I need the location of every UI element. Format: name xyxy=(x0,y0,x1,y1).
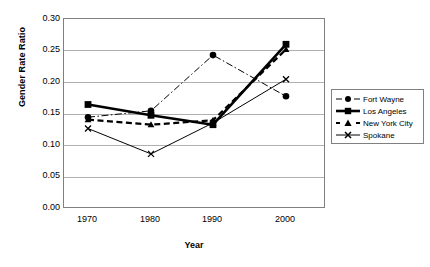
plot-area xyxy=(63,18,325,208)
legend-symbol-solid-square-icon xyxy=(335,105,361,117)
y-tick-label: 0.25 xyxy=(26,45,60,54)
series-lines xyxy=(64,19,326,209)
x-tick-label: 1970 xyxy=(57,214,117,224)
x-axis-title: Year xyxy=(63,240,325,250)
x-tick-label: 1990 xyxy=(182,214,242,224)
legend-label: Spokane xyxy=(361,131,395,140)
y-tick-label: 0.00 xyxy=(26,203,60,212)
x-tick-label: 1980 xyxy=(120,214,180,224)
legend: Fort Wayne Los Angeles New York City Spo… xyxy=(331,89,424,144)
legend-symbol-solid-cross-icon xyxy=(335,129,361,141)
legend-symbol-dash-dot-circle-icon xyxy=(335,93,361,105)
series-spokane xyxy=(85,76,289,157)
x-tick-label: 2000 xyxy=(255,214,315,224)
y-tick-label: 0.30 xyxy=(26,14,60,23)
series-new-york-city xyxy=(85,46,290,127)
legend-item-los-angeles: Los Angeles xyxy=(335,105,421,117)
y-tick-label: 0.10 xyxy=(26,140,60,149)
legend-item-fort-wayne: Fort Wayne xyxy=(335,93,421,105)
chart-figure: Gender Rate Ratio 0.30 0.25 0.20 0.15 0.… xyxy=(0,0,430,267)
legend-item-new-york-city: New York City xyxy=(335,117,421,129)
y-tick-label: 0.20 xyxy=(26,77,60,86)
y-axis-tick-labels: 0.30 0.25 0.20 0.15 0.10 0.05 0.00 xyxy=(24,0,60,267)
legend-label: Fort Wayne xyxy=(361,95,404,104)
y-tick-label: 0.05 xyxy=(26,171,60,180)
legend-item-spokane: Spokane xyxy=(335,129,421,141)
y-tick-label: 0.15 xyxy=(26,108,60,117)
legend-symbol-dashed-triangle-icon xyxy=(335,117,361,129)
legend-label: New York City xyxy=(361,119,413,128)
series-los-angeles xyxy=(85,41,290,128)
legend-label: Los Angeles xyxy=(361,107,407,116)
